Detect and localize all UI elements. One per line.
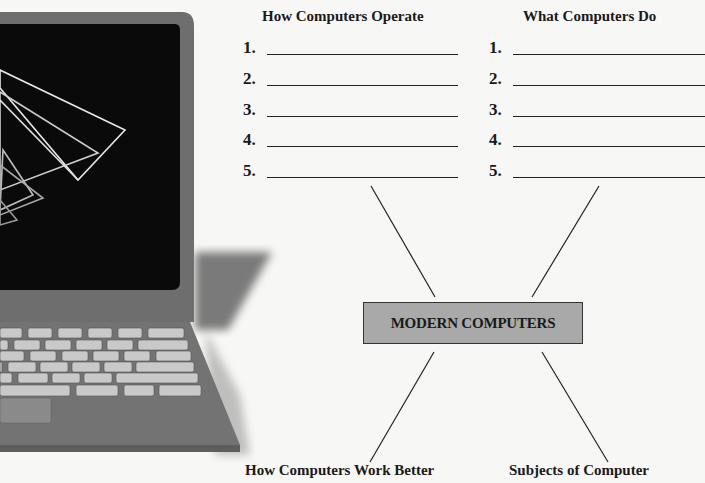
- list-number: 4.: [243, 130, 256, 150]
- branch-heading-what-computers-do: What Computers Do: [523, 8, 656, 25]
- laptop-illustration: [0, 0, 280, 483]
- answer-line-5[interactable]: [267, 177, 458, 178]
- laptop-screen: [0, 24, 180, 290]
- list-number: 1.: [243, 38, 256, 58]
- shadow: [195, 252, 272, 330]
- center-topic-box: MODERN COMPUTERS: [363, 302, 583, 344]
- answer-line-2[interactable]: [267, 85, 458, 86]
- answer-line-2[interactable]: [513, 85, 705, 86]
- answer-line-3[interactable]: [513, 116, 705, 117]
- answer-line-1[interactable]: [267, 54, 458, 55]
- list-number: 4.: [489, 130, 502, 150]
- list-number: 5.: [489, 161, 502, 181]
- list-number: 5.: [243, 161, 256, 181]
- answer-line-5[interactable]: [513, 177, 705, 178]
- list-number: 2.: [243, 69, 256, 89]
- list-number: 3.: [489, 100, 502, 120]
- branch-heading-how-computers-work-better: How Computers Work Better: [245, 462, 434, 479]
- list-number: 1.: [489, 38, 502, 58]
- answer-line-4[interactable]: [267, 146, 458, 147]
- answer-line-3[interactable]: [267, 116, 458, 117]
- list-number: 3.: [243, 100, 256, 120]
- connector-top-right: [532, 186, 599, 297]
- branch-heading-subjects-of-computer: Subjects of Computer: [509, 462, 649, 479]
- trackpad: [0, 398, 51, 423]
- branch-heading-how-computers-operate: How Computers Operate: [262, 8, 424, 25]
- connector-top-left: [371, 186, 435, 297]
- connector-bottom-right: [542, 352, 608, 462]
- answer-line-4[interactable]: [513, 146, 705, 147]
- connector-bottom-left: [370, 352, 434, 462]
- answer-line-1[interactable]: [513, 54, 705, 55]
- list-number: 2.: [489, 69, 502, 89]
